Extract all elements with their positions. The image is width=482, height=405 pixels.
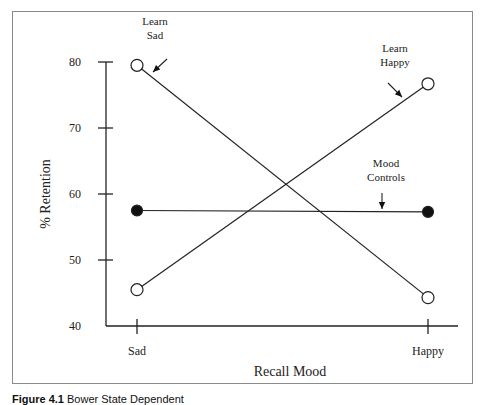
y-tick-label: 40 [69,319,81,333]
y-tick-label: 50 [69,253,81,267]
y-tick-label: 60 [69,187,81,201]
x-tick-label: Happy [412,344,444,358]
data-point-marker [132,205,143,216]
series-annotation-label: Happy [380,56,410,68]
data-point-marker [422,78,434,90]
arrow-head-icon [379,202,385,209]
y-axis-label: % Retention [38,159,53,229]
x-tick-label: Sad [128,344,146,358]
data-point-marker [131,284,143,296]
series-line-learn-happy [137,84,428,290]
series-line-mood-controls [137,211,428,212]
series-annotation-label: Learn [382,42,408,54]
series-annotation-label: Mood [373,157,400,169]
data-point-marker [423,206,434,217]
y-tick-label: 70 [69,121,81,135]
series-annotation-label: Sad [147,29,164,41]
data-point-marker [131,59,143,71]
caption-label: Figure 4.1 [12,393,64,405]
data-point-marker [422,292,434,304]
x-axis-label: Recall Mood [254,364,327,379]
series-annotation-label: Controls [367,171,405,183]
caption-text: Bower State Dependent [67,393,184,405]
figure-caption: Figure 4.1 Bower State Dependent [12,393,184,405]
series-annotation-label: Learn [142,15,168,27]
y-tick-label: 80 [69,55,81,69]
